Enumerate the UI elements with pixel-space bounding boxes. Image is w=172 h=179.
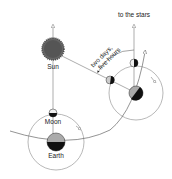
moon-label: Moon [45,118,62,125]
moon-icon-top [130,59,138,67]
earth-icon-right [129,86,143,101]
sun-label: Sun [47,63,59,70]
to-stars-label: to the stars [118,11,151,18]
earth-icon-left [47,133,65,151]
lunar-month-diagram: Sun Moon Earth to the stars two days, fi… [0,0,172,179]
orbit-arrow-right [151,77,155,82]
moon-icon-left [49,109,57,117]
sun-icon [42,38,64,60]
earth-label: Earth [48,152,64,159]
moon-icon-middle [106,76,115,84]
